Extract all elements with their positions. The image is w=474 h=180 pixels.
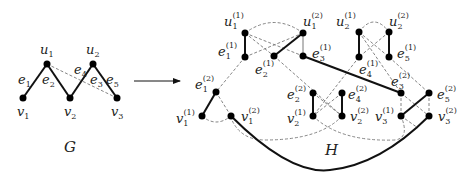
node-v2-2 <box>339 113 346 120</box>
node-v3 <box>114 95 121 102</box>
edge-h <box>245 23 303 34</box>
label-u2: u2 <box>86 42 99 59</box>
node-v1-2 <box>228 113 235 120</box>
graph-g: u1 u2 v1 v2 v3 e1 e2 e4 e3 e5 G <box>17 42 123 156</box>
label-e3-2: e3(2) <box>391 71 410 91</box>
label-e4: e4 <box>74 62 87 79</box>
diagram-canvas: u1 u2 v1 v2 v3 e1 e2 e4 e3 e5 G <box>0 0 474 180</box>
node-u1 <box>44 61 51 68</box>
label-u2-2: u2(2) <box>389 11 409 31</box>
graph-h-title: H <box>324 141 339 159</box>
label-v2-2: v2(2) <box>350 106 369 126</box>
label-e2-1: e2(1) <box>255 59 274 79</box>
label-v2: v2 <box>64 104 76 121</box>
label-u2-1: u2(1) <box>336 11 356 31</box>
graph-h: u1(1) u1(2) u2(1) u2(2) e1(1) e2(1) e3(1… <box>176 11 457 170</box>
node-e5-1 <box>386 54 393 61</box>
label-e5: e5 <box>106 72 119 89</box>
label-e4-1: e4(1) <box>359 59 378 79</box>
node-u2-1 <box>356 29 363 36</box>
node-e4-1 <box>356 54 363 61</box>
label-v1-2: v1(2) <box>241 106 260 126</box>
node-u1-2 <box>300 30 307 37</box>
node-u1-1 <box>242 30 249 37</box>
node-v3-1 <box>398 113 405 120</box>
label-e3-1: e3(1) <box>312 43 331 63</box>
label-v2-1: v2(1) <box>287 108 306 128</box>
node-u2 <box>90 61 97 68</box>
node-e4-2 <box>339 90 346 97</box>
node-v1 <box>20 95 27 102</box>
label-v1: v1 <box>17 104 29 121</box>
node-v2-1 <box>310 113 317 120</box>
label-e1-2: e1(2) <box>195 74 214 94</box>
node-e1-2 <box>213 89 220 96</box>
label-v1-1: v1(1) <box>176 108 195 128</box>
label-u1-2: u1(2) <box>303 11 323 31</box>
graph-g-title: G <box>64 138 76 156</box>
node-v1-1 <box>199 113 206 120</box>
label-e2-2: e2(2) <box>287 84 306 104</box>
label-v3-1: v3(1) <box>375 106 394 126</box>
label-e4-2: e4(2) <box>348 84 367 104</box>
label-e5-2: e5(2) <box>437 84 456 104</box>
node-e3-1 <box>300 53 307 60</box>
label-v3: v3 <box>111 104 123 121</box>
node-u2-2 <box>386 29 393 36</box>
node-v2 <box>67 95 74 102</box>
node-e5-2 <box>426 90 433 97</box>
label-e1: e1 <box>18 72 31 89</box>
label-u1: u1 <box>40 42 53 59</box>
label-e5-1: e5(1) <box>397 43 416 63</box>
node-e2-2 <box>310 90 317 97</box>
label-e1-1: e1(1) <box>218 41 237 61</box>
node-e1-1 <box>242 54 249 61</box>
label-e2: e2 <box>42 72 55 89</box>
label-v3-2: v3(2) <box>438 106 457 126</box>
label-u1-1: u1(1) <box>224 11 244 31</box>
node-v3-2 <box>426 113 433 120</box>
